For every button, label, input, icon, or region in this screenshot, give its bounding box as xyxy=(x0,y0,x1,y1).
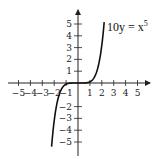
x-tick-label: 1 xyxy=(87,88,93,98)
x-tick-label: 4 xyxy=(123,88,129,98)
y-tick-label: −3 xyxy=(59,113,73,123)
y-tick-label: 5 xyxy=(66,19,72,29)
x-tick-label: 2 xyxy=(99,88,105,98)
y-tick-label: −2 xyxy=(59,102,72,112)
y-tick-label: 4 xyxy=(66,31,72,41)
x-tick-label: 5 xyxy=(135,88,141,98)
plot-area: −5−4−3−2−112345 54321−2−3−4−5 10y = x5 xyxy=(0,0,157,159)
equation-label: 10y = x5 xyxy=(107,19,148,34)
y-tick-label: 3 xyxy=(66,43,72,53)
y-tick-label: −4 xyxy=(59,125,73,135)
y-tick-label: −5 xyxy=(59,137,73,147)
y-tick-label: 2 xyxy=(66,54,72,64)
x-tick-label: 3 xyxy=(111,88,117,98)
y-tick-label: 1 xyxy=(66,66,72,76)
